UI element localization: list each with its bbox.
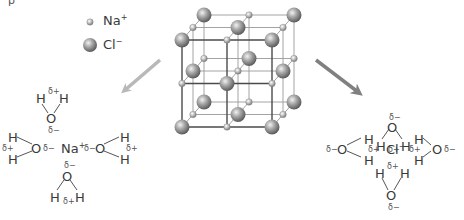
arrow-left-to-sodium-icon <box>125 60 160 90</box>
partial-charge-negative: δ− <box>48 127 60 135</box>
oxygen-atom: O <box>386 189 396 202</box>
legend-cl-sphere-icon <box>83 38 97 52</box>
sodium-ion-sphere-icon <box>280 111 287 118</box>
hydrogen-atom: H <box>36 92 46 105</box>
sodium-ion-sphere-icon <box>291 55 298 62</box>
chloride-ion-sphere-icon <box>287 8 302 23</box>
chloride-ion-sphere-icon <box>231 107 246 122</box>
diagram-graphics <box>0 0 464 220</box>
chloride-ion-sphere-icon <box>265 120 280 135</box>
chloride-ion: Cl− <box>386 143 405 156</box>
sodium-ion-sphere-icon <box>224 124 231 131</box>
chloride-ion-sphere-icon <box>265 33 280 48</box>
hydrogen-atom: H <box>8 153 18 166</box>
sodium-ion-sphere-icon <box>190 111 197 118</box>
legend-na-label: Na+ <box>103 14 127 27</box>
hydrogen-atom: H <box>75 191 85 204</box>
hydrogen-atom: H <box>120 153 130 166</box>
sodium-ion-sphere-icon <box>280 24 287 31</box>
nacl-dissolution-diagram: p <box>0 0 464 220</box>
chloride-ion-sphere-icon <box>175 33 190 48</box>
hydrogen-atom: H <box>8 131 18 144</box>
hydrogen-atom: H <box>375 167 385 180</box>
partial-charge-negative: δ− <box>84 145 96 153</box>
sodium-ion-sphere-icon <box>269 80 276 87</box>
sodium-ion-sphere-icon <box>246 99 253 106</box>
sodium-ion-sphere-icon <box>179 80 186 87</box>
legend-cl-label: Cl− <box>103 38 122 51</box>
chloride-ion-sphere-icon <box>242 51 257 66</box>
hydrogen-atom: H <box>120 131 130 144</box>
oxygen-atom: O <box>62 170 72 183</box>
chloride-ion-sphere-icon <box>197 8 212 23</box>
oxygen-atom: O <box>387 121 397 134</box>
arrow-right-to-chloride-icon <box>316 60 358 92</box>
partial-charge-negative: δ− <box>388 204 400 212</box>
hydrogen-atom: H <box>400 167 410 180</box>
sodium-ion-sphere-icon <box>246 12 253 19</box>
oxygen-atom: O <box>46 112 56 125</box>
nacl-crystal-lattice <box>175 8 302 135</box>
partial-charge-positive: δ+ <box>63 198 75 206</box>
legend-na-sphere-icon <box>87 19 93 25</box>
hydrogen-atom: H <box>59 92 69 105</box>
partial-charge-negative: δ− <box>43 145 55 153</box>
sodium-ion: Na+ <box>61 142 85 155</box>
chloride-ion-sphere-icon <box>287 95 302 110</box>
hydrogen-atom: H <box>414 154 424 167</box>
chloride-ion-sphere-icon <box>175 120 190 135</box>
sodium-ion-sphere-icon <box>201 55 208 62</box>
chloride-ion-sphere-icon <box>231 20 246 35</box>
oxygen-atom: O <box>432 143 442 156</box>
hydrogen-atom: H <box>364 154 374 167</box>
sodium-ion-sphere-icon <box>224 37 231 44</box>
sodium-ion-sphere-icon <box>235 68 242 75</box>
oxygen-atom: O <box>95 142 105 155</box>
partial-charge-positive: δ+ <box>387 163 399 171</box>
partial-charge-negative: δ− <box>444 146 456 154</box>
sodium-ion-sphere-icon <box>190 24 197 31</box>
chloride-ion-sphere-icon <box>276 64 291 79</box>
chloride-ion-sphere-icon <box>197 95 212 110</box>
hydrogen-atom: H <box>50 191 60 204</box>
oxygen-atom: O <box>337 143 347 156</box>
oxygen-atom: O <box>31 142 41 155</box>
chloride-ion-sphere-icon <box>186 64 201 79</box>
chloride-ion-sphere-icon <box>220 76 235 91</box>
partial-charge-positive: δ+ <box>48 88 60 96</box>
partial-charge-negative: δ− <box>326 146 338 154</box>
